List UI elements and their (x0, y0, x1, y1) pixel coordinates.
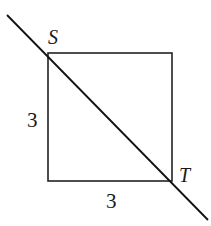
point-label-t: T (179, 164, 192, 186)
side-length-left: 3 (27, 108, 38, 132)
diagram-canvas: S T 3 3 (0, 0, 211, 226)
geometry-figure: S T 3 3 (0, 0, 211, 226)
side-length-bottom: 3 (106, 189, 117, 213)
point-label-s: S (48, 26, 58, 48)
square (48, 53, 172, 181)
